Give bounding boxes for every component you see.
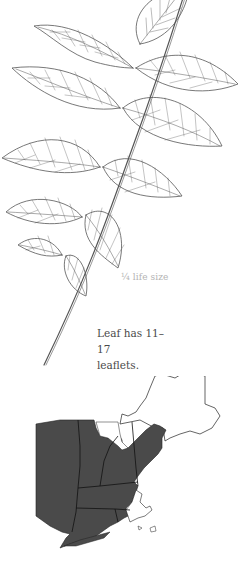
range-map: [0, 376, 239, 562]
leaflet-pair-2: [12, 67, 222, 146]
leaf-stem: [44, 0, 183, 365]
map-island-2: [150, 526, 156, 532]
scale-label: ¼ life size: [121, 272, 169, 282]
leaflet-pair-5: [18, 236, 87, 296]
compound-leaf-illustration: [0, 0, 239, 370]
leaflet-count-caption: Leaf has 11–17 leaflets.: [97, 325, 177, 373]
caption-line-2: leaflets.: [97, 357, 177, 373]
leaflet-pair-1: [34, 25, 238, 91]
map-range-fill: [36, 420, 166, 548]
leaflet-pair-4: [6, 197, 124, 268]
map-state-maine: [120, 376, 220, 441]
map-island-1: [138, 526, 142, 530]
caption-line-1: Leaf has 11–17: [97, 325, 177, 357]
leaflet-pair-3: [2, 137, 182, 197]
